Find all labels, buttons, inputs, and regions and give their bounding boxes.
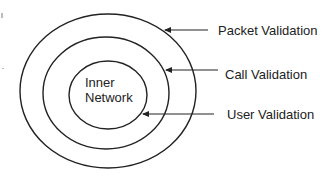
inner-network-line1: Inner [85,75,133,90]
user-validation-label: User Validation [227,107,314,122]
call-validation-label: Call Validation [225,67,307,82]
inner-network-line2: Network [85,90,133,105]
validation-layers-diagram: Inner Network Packet Validation Call Val… [0,0,326,178]
packet-validation-label: Packet Validation [218,23,318,38]
inner-network-label: Inner Network [85,75,133,105]
